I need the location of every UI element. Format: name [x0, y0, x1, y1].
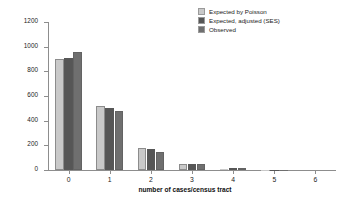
- legend-item-expected-by-poisson: Expected by Poisson: [198, 7, 338, 16]
- x-tick-3: [192, 171, 193, 174]
- y-tick-1000: 1000: [44, 47, 48, 48]
- bar-1-series-1: [105, 108, 114, 170]
- bar-4-series-1: [229, 168, 238, 170]
- bar-group-6: [302, 22, 329, 170]
- legend-label-expected-by-poisson: Expected by Poisson: [209, 7, 267, 16]
- bar-2-series-2: [156, 152, 165, 170]
- bar-group-5: [261, 22, 288, 170]
- y-tick-200: 200: [44, 145, 48, 146]
- bar-4-series-0: [220, 169, 229, 170]
- bar-group-2: [138, 22, 165, 170]
- x-tick-0: [69, 171, 70, 174]
- y-tick-label-0: 0: [34, 165, 38, 172]
- x-tick-2: [151, 171, 152, 174]
- bar-0-series-2: [73, 52, 82, 170]
- x-tick-4: [233, 171, 234, 174]
- y-tick-800: 800: [44, 71, 48, 72]
- y-tick-label-1000: 1000: [24, 42, 38, 49]
- plot-area: 020040060080010001200 0123456: [48, 22, 336, 170]
- bar-3-series-1: [188, 164, 197, 170]
- x-tick-label-3: 3: [182, 176, 202, 183]
- x-axis-title: number of cases/census tract: [40, 186, 330, 193]
- bar-group-0: [55, 22, 82, 170]
- x-tick-5: [274, 171, 275, 174]
- y-tick-label-1200: 1200: [24, 17, 38, 24]
- x-tick-1: [110, 171, 111, 174]
- bar-group-4: [220, 22, 247, 170]
- legend-swatch-expected-by-poisson: [198, 8, 205, 15]
- x-tick-label-1: 1: [100, 176, 120, 183]
- y-tick-0: 0: [44, 170, 48, 171]
- bar-group-1: [96, 22, 123, 170]
- bar-chart: Expected by Poisson Expected, adjusted (…: [0, 0, 343, 206]
- bar-0-series-1: [64, 58, 73, 170]
- y-tick-400: 400: [44, 121, 48, 122]
- y-axis-line: [48, 22, 49, 170]
- y-tick-1200: 1200: [44, 22, 48, 23]
- x-tick-label-4: 4: [223, 176, 243, 183]
- x-tick-label-0: 0: [59, 176, 79, 183]
- bar-1-series-0: [96, 106, 105, 170]
- bar-group-3: [179, 22, 206, 170]
- y-tick-label-800: 800: [27, 66, 38, 73]
- y-tick-label-200: 200: [27, 140, 38, 147]
- bar-4-series-2: [238, 168, 247, 170]
- y-tick-600: 600: [44, 96, 48, 97]
- x-tick-label-5: 5: [264, 176, 284, 183]
- y-tick-label-600: 600: [27, 91, 38, 98]
- bar-3-series-0: [179, 164, 188, 170]
- bar-0-series-0: [55, 59, 64, 170]
- bar-3-series-2: [197, 164, 206, 170]
- bar-2-series-1: [147, 149, 156, 170]
- bar-1-series-2: [115, 111, 124, 170]
- x-tick-6: [315, 171, 316, 174]
- x-tick-label-2: 2: [141, 176, 161, 183]
- bar-2-series-0: [138, 148, 147, 170]
- y-tick-label-400: 400: [27, 116, 38, 123]
- x-tick-label-6: 6: [305, 176, 325, 183]
